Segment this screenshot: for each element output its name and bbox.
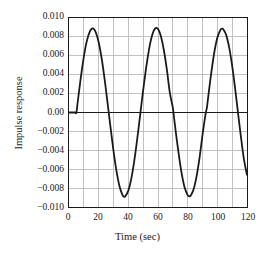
y-tick-label: −0.004 [37, 146, 64, 156]
y-tick-label: 0.008 [43, 31, 64, 41]
x-tick-label: 60 [153, 213, 163, 223]
x-tick-label: 20 [93, 213, 103, 223]
x-axis-tick-labels: 020406080100120 [0, 213, 275, 227]
y-tick-label: −0.002 [37, 127, 64, 137]
y-tick-label: −0.010 [37, 203, 64, 213]
y-tick-label: 0.002 [43, 88, 64, 98]
y-tick-label: 0.004 [43, 69, 64, 79]
y-tick-label: 0.006 [43, 50, 64, 60]
y-tick-label: −0.006 [37, 165, 64, 175]
plot-inner [69, 18, 247, 207]
y-tick-label: 0.010 [43, 12, 64, 22]
x-tick-label: 120 [241, 213, 255, 223]
x-tick-label: 100 [211, 213, 225, 223]
x-axis-title: Time (sec) [0, 231, 275, 242]
x-tick-label: 40 [123, 213, 133, 223]
plot-area [68, 17, 248, 208]
x-tick-label: 80 [183, 213, 193, 223]
y-axis-title: Impulse response [13, 76, 24, 149]
chart-canvas [69, 18, 247, 207]
y-tick-label: −0.008 [37, 184, 64, 194]
impulse-response-chart: 0.0100.0080.0060.0040.0020.00−0.002−0.00… [0, 0, 275, 253]
y-tick-label: 0.00 [47, 108, 64, 118]
x-tick-label: 0 [66, 213, 71, 223]
y-axis-title-wrapper: Impulse response [8, 33, 26, 193]
